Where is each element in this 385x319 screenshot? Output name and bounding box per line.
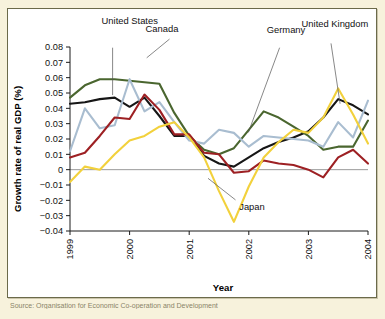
y-tick-label: 0.03 (45, 119, 63, 129)
x-tick-label: 2001 (185, 239, 195, 259)
x-tick-label: 2003 (304, 239, 314, 259)
y-tick-label: 0.01 (45, 150, 63, 160)
series-annotation-united-kingdom: United Kingdom (302, 18, 369, 29)
y-tick-label: 0.04 (45, 104, 63, 114)
series-annotation-germany: Germany (267, 24, 306, 35)
x-tick-label: 2002 (244, 239, 254, 259)
figure-container: 0.080.070.060.050.040.030.020.010−0.01−0… (0, 0, 385, 319)
x-axis-ticks-group: 199920002001200220032004 (65, 231, 373, 259)
annotation-leader-canada (147, 39, 170, 58)
series-line-united-states (70, 98, 368, 167)
x-tick-label: 2004 (363, 239, 373, 259)
series-line-germany (70, 95, 368, 178)
line-chart-svg: 0.080.070.060.050.040.030.020.010−0.01−0… (8, 9, 375, 296)
y-tick-label: −0.03 (40, 211, 63, 221)
figure-caption: Source: Organisation for Economic Co-ope… (10, 302, 375, 309)
y-tick-label: 0.06 (45, 73, 63, 83)
x-tick-label: 1999 (65, 239, 75, 259)
chart-panel: 0.080.070.060.050.040.030.020.010−0.01−0… (7, 8, 377, 298)
y-tick-label: 0.05 (45, 88, 63, 98)
data-series-group (70, 79, 368, 222)
y-axis-title: Growth rate of real GDP (%) (12, 86, 23, 212)
axis-lines-group (70, 47, 368, 231)
series-annotation-canada: Canada (146, 23, 180, 34)
x-axis-title: Year (213, 282, 234, 293)
annotation-leader-germany (248, 48, 279, 133)
y-tick-label: 0.02 (45, 134, 63, 144)
y-tick-label: −0.04 (40, 226, 63, 236)
x-tick-label: 2000 (125, 239, 135, 259)
y-axis-ticks-group: 0.080.070.060.050.040.030.020.010−0.01−0… (40, 42, 70, 236)
y-tick-label: −0.02 (40, 196, 63, 206)
y-tick-label: 0 (58, 165, 63, 175)
plot-area: 0.080.070.060.050.040.030.020.010−0.01−0… (8, 9, 376, 297)
y-tick-label: 0.07 (45, 58, 63, 68)
series-annotation-japan: Japan (239, 201, 265, 212)
annotation-labels-group: United StatesCanadaGermanyUnited Kingdom… (102, 15, 369, 212)
y-tick-label: 0.08 (45, 42, 63, 52)
y-tick-label: −0.01 (40, 180, 63, 190)
annotation-leaders-group (113, 39, 341, 200)
